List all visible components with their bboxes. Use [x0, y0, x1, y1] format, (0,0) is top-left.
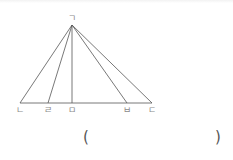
base-point-label: ㄴ [16, 106, 24, 115]
segment-apex-to-point-3 [72, 25, 127, 103]
base-point-label: ㅁ [68, 106, 76, 115]
answer-blank[interactable] [92, 128, 212, 146]
apex-segments [20, 25, 152, 103]
base-point-label: ㄷ [148, 106, 156, 115]
segment-apex-to-point-1 [48, 25, 72, 103]
base-point-label: ㄹ [44, 106, 52, 115]
answer-close-paren: ) [215, 130, 221, 145]
base-point-label: ㅂ [123, 106, 131, 115]
answer-open-paren: ( [83, 130, 89, 145]
segment-apex-to-point-4 [72, 25, 152, 103]
segment-apex-to-point-0 [20, 25, 72, 103]
apex-label: ㄱ [68, 14, 76, 23]
